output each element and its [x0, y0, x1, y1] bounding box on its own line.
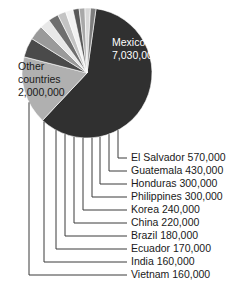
slice-label-other-countries: Other: [18, 60, 45, 72]
leader-line-el-salvador: [118, 130, 127, 158]
leader-label-el-salvador: El Salvador 570,000: [131, 151, 226, 163]
leader-label-brazil: Brazil 180,000: [131, 229, 198, 241]
leader-label-china: China 220,000: [131, 216, 199, 228]
leader-label-vietnam: Vietnam 160,000: [131, 268, 210, 280]
slice-label-other-countries: countries: [18, 73, 61, 85]
pie-chart-figure: Mexico7,030,000Othercountries2,000,000 E…: [0, 0, 238, 288]
leader-label-guatemala: Guatemala 430,000: [131, 164, 223, 176]
leader-label-korea: Korea 240,000: [131, 203, 200, 215]
leader-label-honduras: Honduras 300,000: [131, 177, 218, 189]
leader-labels-group: El Salvador 570,000Guatemala 430,000Hond…: [131, 151, 226, 280]
pie-chart-svg: Mexico7,030,000Othercountries2,000,000 E…: [0, 0, 238, 288]
leader-label-ecuador: Ecuador 170,000: [131, 242, 211, 254]
slice-label-mexico: 7,030,000: [112, 49, 159, 61]
leader-label-philippines: Philippines 300,000: [131, 190, 223, 202]
leader-label-india: India 160,000: [131, 255, 195, 267]
leader-line-honduras: [100, 137, 127, 184]
slice-label-other-countries: 2,000,000: [18, 86, 65, 98]
slice-label-mexico: Mexico: [112, 36, 145, 48]
leader-line-korea: [83, 138, 127, 210]
